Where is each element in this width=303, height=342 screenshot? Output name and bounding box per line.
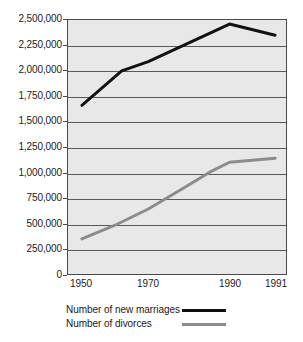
legend-swatch-divorces	[182, 323, 226, 326]
y-axis-tick-label: 250,000	[0, 244, 62, 254]
x-axis: 1950197019901991	[0, 278, 303, 292]
legend-label-divorces: Number of divorces	[66, 317, 152, 331]
cropped-title-remnant	[86, 0, 146, 5]
y-axis-tick-label: 2,500,000	[0, 14, 62, 24]
series-layer	[68, 20, 286, 274]
legend-label-marriages: Number of new marriages	[66, 303, 180, 317]
x-axis-tick-label: 1950	[70, 278, 92, 290]
line-chart: 2,500,0002,250,0002,000,0001,750,0001,50…	[0, 0, 303, 342]
plot-area	[67, 19, 287, 275]
y-axis-tick-label: 1,750,000	[0, 91, 62, 101]
y-axis-tick-label: 750,000	[0, 193, 62, 203]
y-axis-tick-label: 2,250,000	[0, 40, 62, 50]
series-line-marriages	[82, 24, 275, 105]
x-axis-tick-label: 1970	[137, 278, 159, 290]
y-axis-tick-label: 1,000,000	[0, 168, 62, 178]
y-axis-tick	[63, 275, 67, 276]
x-axis-tick-label: 1990	[219, 278, 241, 290]
gridline	[68, 275, 286, 276]
legend-item-divorces: Number of divorces	[66, 317, 296, 331]
legend-item-marriages: Number of new marriages	[66, 303, 296, 317]
y-axis-tick-label: 2,000,000	[0, 65, 62, 75]
x-axis-tick-label: 1991	[265, 278, 287, 290]
y-axis-tick-label: 1,500,000	[0, 116, 62, 126]
legend-swatch-marriages	[182, 309, 226, 312]
series-line-divorces	[82, 158, 275, 239]
y-axis-tick-label: 1,250,000	[0, 142, 62, 152]
legend: Number of new marriages Number of divorc…	[66, 303, 296, 335]
y-axis-tick-label: 500,000	[0, 219, 62, 229]
